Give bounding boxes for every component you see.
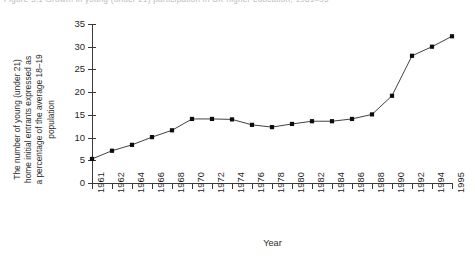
data-point-1992 xyxy=(410,54,414,58)
data-point-1970 xyxy=(190,117,194,121)
data-point-1964 xyxy=(130,143,134,147)
x-axis-title: Year xyxy=(92,238,453,248)
data-point-1995 xyxy=(450,34,454,38)
data-point-1982 xyxy=(310,119,314,123)
y-tick-label: 15 xyxy=(74,109,85,120)
data-point-1994 xyxy=(430,45,434,49)
data-point-1962 xyxy=(110,149,114,153)
y-tick-label: 35 xyxy=(74,18,85,29)
y-tick-label: 20 xyxy=(74,86,85,97)
line-chart-figure: The number of young (under 21) home init… xyxy=(0,0,475,260)
series-line xyxy=(92,36,452,159)
plot-area: 05101520253035 1961196219641966196819701… xyxy=(92,24,452,183)
data-point-1990 xyxy=(390,94,394,98)
y-tick-label: 10 xyxy=(74,132,85,143)
data-series xyxy=(92,24,453,185)
data-point-1980 xyxy=(290,122,294,126)
data-point-1978 xyxy=(270,125,274,129)
y-tick-label: 5 xyxy=(80,154,85,165)
data-point-1968 xyxy=(170,128,174,132)
y-axis-title: The number of young (under 21) home init… xyxy=(12,32,57,207)
data-point-1986 xyxy=(350,117,354,121)
data-point-1961 xyxy=(90,157,94,161)
y-tick-label: 25 xyxy=(74,63,85,74)
y-tick-label: 30 xyxy=(74,41,85,52)
data-point-1984 xyxy=(330,119,334,123)
data-point-1974 xyxy=(230,117,234,121)
data-point-1966 xyxy=(150,135,154,139)
data-point-1972 xyxy=(210,117,214,121)
y-tick-label: 0 xyxy=(80,177,85,188)
x-tick-label-1995: 1995 xyxy=(456,172,466,193)
data-point-1988 xyxy=(370,112,374,116)
series-markers xyxy=(90,34,454,161)
data-point-1976 xyxy=(250,123,254,127)
